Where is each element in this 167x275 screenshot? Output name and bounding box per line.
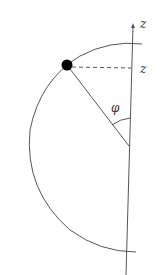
circle-arc [29, 43, 142, 252]
sphere-diagram: z z φ [0, 0, 167, 275]
axis-label: z [139, 17, 147, 31]
angle-label: φ [111, 101, 120, 115]
angle-arc [112, 118, 130, 125]
height-label: z [139, 62, 147, 76]
z-axis [126, 26, 133, 275]
particle-dot [62, 60, 73, 71]
radius-line [67, 65, 129, 146]
arrow-icon [131, 23, 135, 28]
height-dashed-line [72, 67, 131, 68]
